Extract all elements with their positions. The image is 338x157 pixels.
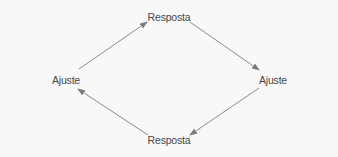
- arrow-left-to-top: [79, 22, 147, 69]
- node-bottom-resposta: Resposta: [148, 134, 191, 146]
- cycle-diagram: Resposta Ajuste Resposta Ajuste: [0, 0, 338, 157]
- arrow-bottom-to-left: [78, 89, 148, 135]
- node-right-ajuste: Ajuste: [259, 74, 287, 86]
- arrow-right-to-bottom: [190, 88, 259, 135]
- node-top-resposta: Resposta: [148, 11, 191, 23]
- node-left-ajuste: Ajuste: [52, 74, 80, 86]
- arrow-top-to-right: [190, 22, 259, 70]
